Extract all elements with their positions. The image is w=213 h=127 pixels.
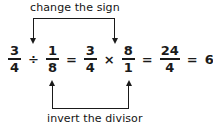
- bracket-bottom-horizontal-line: [52, 108, 129, 109]
- bracket-top-horizontal-line: [33, 18, 115, 19]
- annotation-bracket-bottom: [52, 79, 129, 109]
- multiplication-operator: ×: [104, 53, 115, 66]
- denominator: 8: [47, 60, 58, 74]
- equals-operator-3: =: [187, 53, 198, 66]
- fraction-division-diagram: change the sign 3 4 ÷ 1 8 = 3 4 × 8: [0, 0, 213, 127]
- bracket-top-right-stem: [114, 18, 115, 40]
- bracket-bottom-right-stem: [128, 86, 129, 109]
- equation-row: 3 4 ÷ 1 8 = 3 4 × 8 1 = 24 4 = 6: [0, 41, 213, 77]
- arrow-up-icon-right: [126, 80, 132, 86]
- fraction-three-fourths-2: 3 4: [84, 44, 97, 74]
- denominator: 4: [164, 60, 175, 74]
- numerator: 3: [9, 44, 20, 58]
- denominator: 1: [123, 60, 134, 74]
- fraction-three-fourths: 3 4: [8, 44, 21, 74]
- annotation-label-invert-the-divisor: invert the divisor: [47, 112, 143, 125]
- bracket-top-left-stem: [33, 18, 34, 40]
- fraction-one-eighth: 1 8: [46, 44, 59, 74]
- fraction-twentyfour-fourths: 24 4: [160, 44, 180, 74]
- equals-operator-2: =: [142, 53, 153, 66]
- denominator: 4: [85, 60, 96, 74]
- numerator: 8: [123, 44, 134, 58]
- denominator: 4: [9, 60, 20, 74]
- annotation-label-change-the-sign: change the sign: [30, 1, 120, 14]
- result-six: 6: [205, 53, 213, 66]
- arrow-up-icon-left: [49, 80, 55, 86]
- division-operator: ÷: [28, 53, 39, 66]
- fraction-eight-over-one: 8 1: [122, 44, 135, 74]
- equals-operator-1: =: [66, 53, 77, 66]
- bracket-bottom-left-stem: [52, 86, 53, 109]
- numerator: 3: [85, 44, 96, 58]
- numerator: 1: [47, 44, 58, 58]
- numerator: 24: [160, 44, 180, 58]
